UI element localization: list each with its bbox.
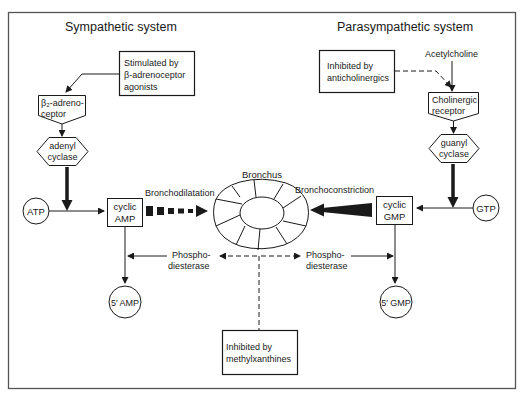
svg-text:receptor: receptor — [432, 106, 465, 116]
guanyl-cyclase: guanyl cyclase — [429, 135, 479, 163]
parasympathetic-title: Parasympathetic system — [337, 20, 473, 34]
beta2-adrenoceptor: β₂-adreno- ceptor — [39, 96, 86, 125]
svg-text:diesterase: diesterase — [306, 261, 348, 271]
svg-text:cyclase: cyclase — [47, 152, 77, 162]
5-gmp-node: 5′ GMP — [380, 286, 412, 318]
svg-text:β-adrenoceptor: β-adrenoceptor — [124, 70, 185, 80]
phosphodiesterase-right: Phospho- diesterase — [306, 250, 348, 271]
svg-text:Inhibited by: Inhibited by — [327, 61, 374, 71]
svg-text:Stimulated by: Stimulated by — [124, 58, 179, 68]
svg-text:diesterase: diesterase — [168, 261, 210, 271]
svg-text:cyclic: cyclic — [383, 199, 406, 210]
svg-text:guanyl: guanyl — [441, 138, 468, 148]
svg-text:cyclase: cyclase — [439, 149, 469, 159]
svg-text:Phospho-: Phospho- — [172, 250, 211, 260]
bronchodilatation-label: Bronchodilatation — [145, 188, 215, 198]
svg-text:Cholinergic: Cholinergic — [432, 95, 478, 105]
bronchodilatation-arrow — [146, 205, 208, 217]
svg-text:ATP: ATP — [27, 206, 45, 217]
bronchial-signaling-diagram: Sympathetic system Parasympathetic syste… — [0, 0, 523, 403]
svg-text:ceptor: ceptor — [41, 109, 66, 119]
stimulus-arrow — [66, 74, 119, 92]
anticholinergics-inhibitor-box: Inhibited by anticholinergics — [320, 51, 395, 93]
bronchoconstriction-label: Bronchoconstriction — [295, 185, 374, 195]
svg-text:Inhibited by: Inhibited by — [226, 342, 273, 352]
svg-text:5′ AMP: 5′ AMP — [111, 298, 139, 308]
methylxanthines-inhibitor-box: Inhibited by methylxanthines — [223, 331, 298, 375]
atp-node: ATP — [23, 198, 49, 224]
svg-text:adenyl: adenyl — [49, 141, 76, 151]
svg-text:agonists: agonists — [124, 82, 158, 92]
svg-text:GTP: GTP — [476, 203, 496, 214]
phosphodiesterase-left: Phospho- diesterase — [168, 250, 211, 271]
svg-text:AMP: AMP — [115, 213, 136, 224]
svg-text:5′ GMP: 5′ GMP — [381, 298, 411, 308]
cholinergic-receptor: Cholinergic receptor — [429, 93, 479, 122]
bronchoconstriction-arrow — [310, 203, 372, 217]
svg-text:Phospho-: Phospho- — [306, 250, 345, 260]
sympathetic-title: Sympathetic system — [65, 20, 177, 34]
cyclic-amp: cyclic AMP — [108, 199, 143, 227]
guanyl-thick-arrowhead — [448, 197, 459, 208]
5-amp-node: 5′ AMP — [109, 286, 141, 318]
beta-agonist-stimulus-box: Stimulated by β-adrenoceptor agonists — [120, 52, 195, 96]
gtp-node: GTP — [473, 195, 499, 221]
svg-text:β₂-adreno-: β₂-adreno- — [41, 98, 84, 108]
acetylcholine-label: Acetylcholine — [425, 49, 478, 59]
svg-text:cyclic: cyclic — [113, 201, 136, 212]
anticholinergic-inhibit-arrow — [395, 71, 451, 87]
svg-text:GMP: GMP — [384, 211, 406, 222]
adenyl-thick-arrowhead — [62, 200, 73, 211]
cyclic-gmp: cyclic GMP — [377, 197, 413, 225]
bronchus-label: Bronchus — [242, 169, 282, 180]
svg-text:anticholinergics: anticholinergics — [327, 73, 390, 83]
adenyl-cyclase: adenyl cyclase — [37, 138, 88, 166]
svg-text:methylxanthines: methylxanthines — [226, 354, 292, 364]
